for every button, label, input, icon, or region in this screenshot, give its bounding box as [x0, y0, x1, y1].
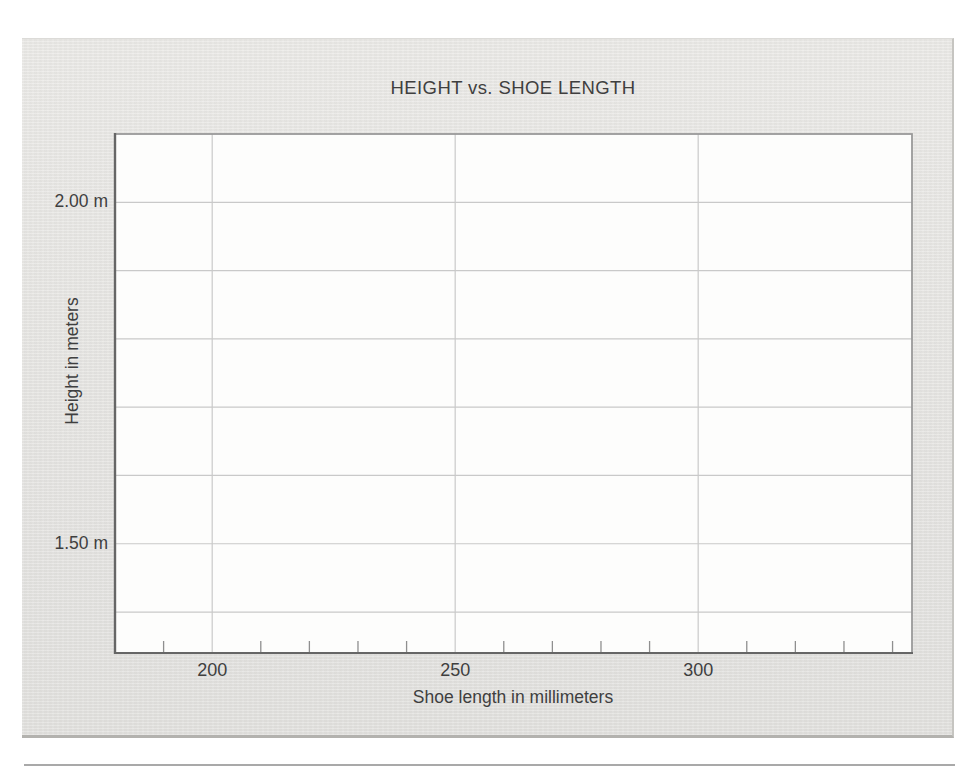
y-tick-label: 2.00 m [22, 191, 108, 212]
scanned-page: HEIGHT vs. SHOE LENGTH Height in meters … [0, 0, 980, 777]
page-divider-rule [24, 764, 955, 766]
x-tick-label: 200 [197, 660, 227, 681]
x-tick-label: 300 [683, 660, 713, 681]
chart-plot-area [22, 39, 952, 735]
figure-panel: HEIGHT vs. SHOE LENGTH Height in meters … [22, 38, 954, 738]
y-tick-label: 1.50 m [22, 533, 108, 554]
plot-background [115, 134, 912, 653]
x-tick-label: 250 [440, 660, 470, 681]
